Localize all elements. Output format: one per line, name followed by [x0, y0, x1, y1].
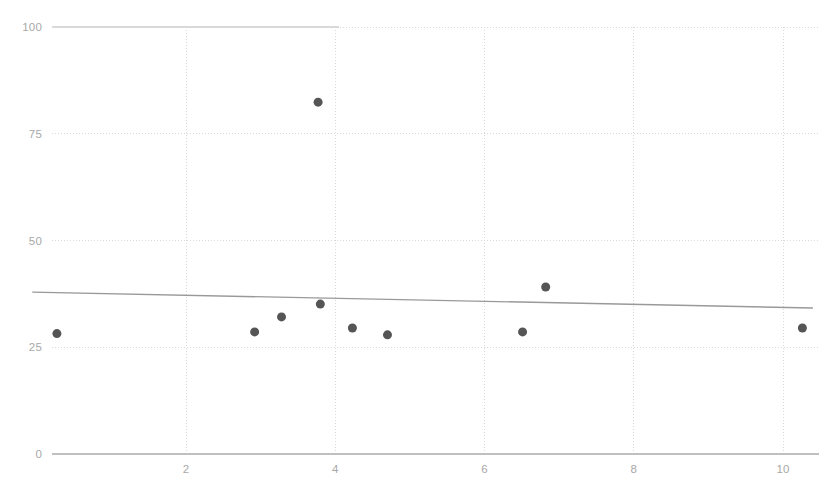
- y-tick-label-25: 25: [0, 341, 42, 353]
- data-point: [277, 312, 286, 321]
- data-point: [316, 300, 325, 309]
- x-tick-label-6: 6: [481, 463, 488, 475]
- trend-line-path: [32, 292, 813, 308]
- data-point: [383, 330, 392, 339]
- data-point-series: [52, 98, 807, 340]
- data-point: [541, 283, 550, 292]
- plot-canvas: [0, 0, 827, 497]
- data-point: [518, 327, 527, 336]
- y-tick-label-75: 75: [0, 128, 42, 140]
- x-tick-label-10: 10: [776, 463, 789, 475]
- data-point: [348, 324, 357, 333]
- y-gridlines: [52, 27, 819, 347]
- y-tick-label-0: 0: [0, 448, 42, 460]
- data-point: [314, 98, 323, 107]
- data-point: [798, 324, 807, 333]
- y-tick-label-50: 50: [0, 235, 42, 247]
- data-point: [250, 327, 259, 336]
- plot-area: [0, 0, 827, 497]
- x-tick-label-8: 8: [630, 463, 637, 475]
- y-tick-label-100: 100: [0, 21, 42, 33]
- x-tick-label-4: 4: [332, 463, 339, 475]
- trend-line: [32, 292, 813, 308]
- x-tick-label-2: 2: [183, 463, 190, 475]
- data-point: [52, 329, 61, 338]
- scatter-chart: 0255075100 246810: [0, 0, 827, 497]
- x-gridlines: [186, 27, 783, 454]
